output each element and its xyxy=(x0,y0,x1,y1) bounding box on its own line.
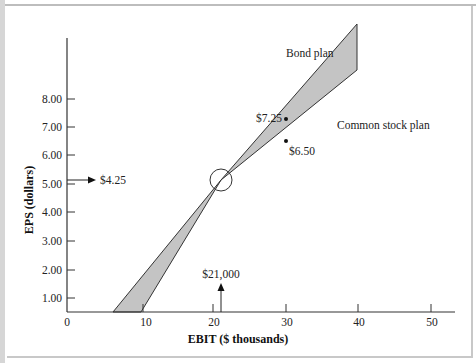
stock-value-label: $6.50 xyxy=(289,145,315,157)
svg-text:40: 40 xyxy=(353,316,365,328)
svg-text:7.00: 7.00 xyxy=(42,121,62,133)
x-axis-title: EBIT ($ thousands) xyxy=(188,332,289,346)
svg-text:30: 30 xyxy=(281,316,293,328)
svg-text:20: 20 xyxy=(208,316,220,328)
y-axis-title: EPS (dollars) xyxy=(22,166,36,234)
svg-text:3.00: 3.00 xyxy=(42,235,62,247)
svg-text:5.00: 5.00 xyxy=(42,178,62,190)
svg-text:10: 10 xyxy=(140,316,152,328)
eps-indifference-arrow xyxy=(67,177,96,184)
x-tick-labels: 0 10 20 30 40 50 xyxy=(64,316,438,328)
y-tick-labels: 1.00 2.00 3.00 4.00 5.00 6.00 7.00 8.00 xyxy=(42,93,62,304)
x-ticks xyxy=(143,304,431,312)
y-ticks xyxy=(67,99,75,298)
svg-text:8.00: 8.00 xyxy=(42,93,62,105)
svg-text:0: 0 xyxy=(64,316,70,328)
stock-point-30 xyxy=(284,139,288,143)
bond-value-label: $7.25 xyxy=(256,112,282,124)
bond-plan-label: Bond plan xyxy=(286,47,334,60)
eps-ebit-chart: 1.00 2.00 3.00 4.00 5.00 6.00 7.00 8.00 … xyxy=(0,0,476,363)
common-stock-plan-label: Common stock plan xyxy=(337,119,430,132)
eps-indifference-label: $4.25 xyxy=(100,174,126,186)
svg-text:4.00: 4.00 xyxy=(42,206,62,218)
bond-point-30 xyxy=(284,117,288,121)
svg-text:1.00: 1.00 xyxy=(42,292,62,304)
svg-text:50: 50 xyxy=(426,316,438,328)
ebit-indifference-arrow xyxy=(218,283,225,312)
svg-text:6.00: 6.00 xyxy=(42,149,62,161)
svg-text:2.00: 2.00 xyxy=(42,264,62,276)
bond-region-lower xyxy=(113,180,221,312)
ebit-indifference-label: $21,000 xyxy=(202,268,240,281)
